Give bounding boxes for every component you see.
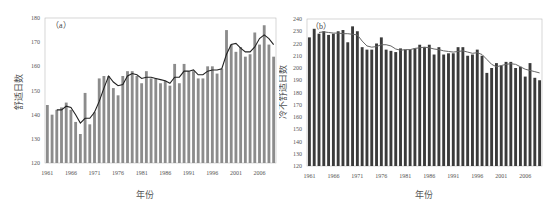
x-tick-label: 1971 (351, 173, 363, 179)
bar (471, 55, 474, 166)
bar (514, 68, 517, 166)
bar (140, 83, 143, 163)
bar (308, 37, 311, 166)
x-tick-label: 1966 (327, 173, 339, 179)
bar (112, 88, 115, 163)
bar (107, 76, 110, 163)
bar (70, 110, 73, 163)
bar (268, 45, 271, 163)
bar (249, 54, 252, 163)
bar (490, 68, 493, 166)
x-tick-label: 1961 (303, 173, 315, 179)
x-tick-label: 2001 (230, 170, 242, 176)
bar (524, 77, 527, 166)
y-tick-label: 180 (31, 15, 40, 21)
bar (202, 78, 205, 163)
bar (131, 71, 134, 163)
x-tick-label: 1991 (183, 170, 195, 176)
bar (399, 48, 402, 166)
x-tick-label: 1986 (423, 173, 435, 179)
bar (126, 71, 129, 163)
bar (65, 103, 68, 163)
x-tick-label: 1976 (112, 170, 124, 176)
y-tick-label: 190 (293, 77, 302, 83)
bar (457, 47, 460, 166)
bar (351, 26, 354, 166)
bar (318, 34, 321, 166)
cold-discomfort-days-chart: （b） 120130140150160170180190200210220230… (279, 0, 557, 211)
y-tick-label: 160 (31, 63, 40, 69)
bar (79, 134, 82, 163)
y-tick-label: 220 (293, 41, 302, 47)
bar (272, 57, 275, 163)
x-axis-label-b: 年份 (415, 189, 433, 200)
y-tick-label: 130 (293, 151, 302, 157)
y-axis-label-b: 冷不舒适日数 (279, 65, 288, 119)
bar (476, 50, 479, 166)
bar (413, 48, 416, 166)
bar (253, 33, 256, 164)
bar (93, 112, 96, 163)
bar (187, 71, 190, 163)
bar (322, 31, 325, 166)
bar (495, 63, 498, 166)
bar (230, 45, 233, 163)
bar (423, 47, 426, 166)
y-axis-ticks-b: 120130140150160170180190200210220230240 (293, 16, 302, 169)
bar (380, 37, 383, 166)
chart-panel-a: （a） 120130140150160170180 19611966197119… (0, 0, 279, 211)
x-tick-label: 1991 (447, 173, 459, 179)
bar (178, 83, 181, 163)
bar (88, 124, 91, 163)
bar (433, 55, 436, 166)
y-tick-label: 240 (293, 16, 302, 22)
bar (327, 35, 330, 166)
bar (519, 67, 522, 166)
bar (192, 71, 195, 163)
y-tick-label: 140 (31, 112, 40, 118)
bar (394, 52, 397, 166)
x-tick-label: 1996 (206, 170, 218, 176)
chart-panel-b: （b） 120130140150160170180190200210220230… (279, 0, 557, 211)
y-axis-ticks-a: 120130140150160170180 (31, 15, 40, 166)
bar (60, 107, 63, 163)
x-tick-label: 2001 (495, 173, 507, 179)
x-tick-label: 1976 (375, 173, 387, 179)
bar (121, 76, 124, 163)
bar (206, 66, 209, 163)
bar (216, 74, 219, 163)
bar (98, 78, 101, 163)
bar (428, 45, 431, 166)
bar (404, 50, 407, 166)
bar (481, 56, 484, 166)
comfort-days-chart: （a） 120130140150160170180 19611966197119… (0, 0, 279, 211)
y-tick-label: 230 (293, 28, 302, 34)
bar (366, 50, 369, 166)
bar (169, 86, 172, 163)
y-axis-label-a: 舒适日数 (13, 74, 24, 110)
bar (244, 57, 247, 163)
bar (505, 62, 508, 166)
bar (418, 45, 421, 166)
x-tick-label: 1966 (65, 170, 77, 176)
bar (500, 66, 503, 166)
bar (211, 66, 214, 163)
bar (164, 81, 167, 163)
y-tick-label: 140 (293, 139, 302, 145)
bar (136, 76, 139, 163)
bar (447, 53, 450, 166)
x-tick-label: 1981 (136, 170, 148, 176)
y-tick-label: 210 (293, 53, 302, 59)
bar (375, 44, 378, 167)
bar (263, 25, 266, 163)
bar (385, 50, 388, 166)
bar (74, 122, 77, 163)
panel-label-a: （a） (51, 21, 71, 30)
y-tick-label: 170 (293, 102, 302, 108)
y-tick-label: 120 (31, 160, 40, 166)
bar (437, 47, 440, 166)
y-tick-label: 120 (293, 163, 302, 169)
y-tick-label: 170 (31, 39, 40, 45)
bar (55, 110, 58, 163)
bar (150, 78, 153, 163)
